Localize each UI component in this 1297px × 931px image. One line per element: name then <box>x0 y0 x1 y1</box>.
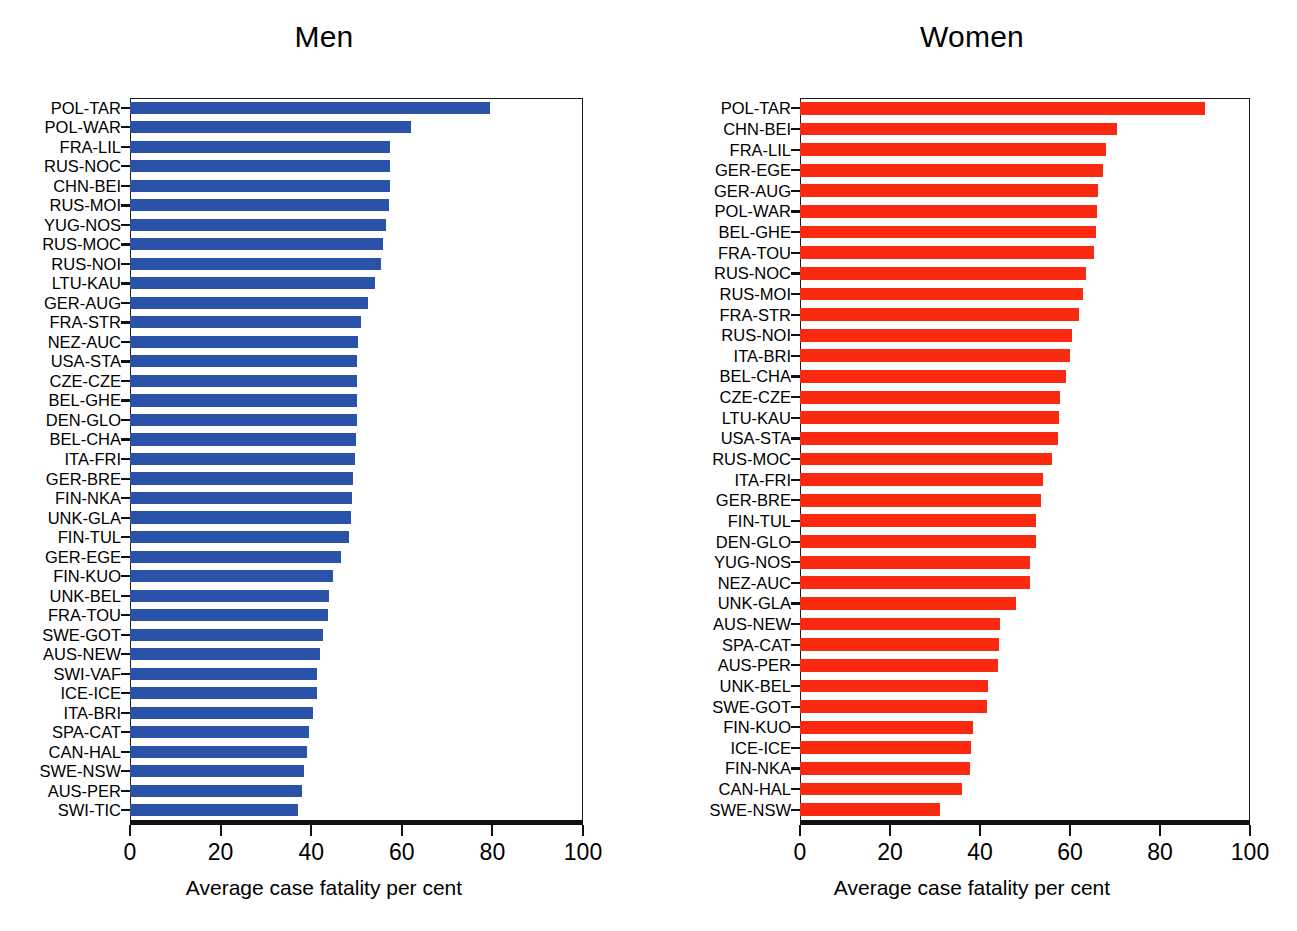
category-tick-mark <box>791 623 800 625</box>
category-tick-mark <box>791 210 800 212</box>
bar <box>130 297 368 309</box>
category-tick-mark <box>121 321 130 323</box>
bar <box>800 659 998 672</box>
bar-row: GER-BRE <box>130 472 583 484</box>
x-tick <box>1249 825 1251 836</box>
category-tick-mark <box>791 767 800 769</box>
category-label: DEN-GLO <box>46 412 121 429</box>
bar-row: USA-STA <box>800 432 1250 445</box>
x-tick-label: 80 <box>1147 839 1173 866</box>
bar-rows-men: POL-TARPOL-WARFRA-LILRUS-NOCCHN-BEIRUS-M… <box>130 98 583 820</box>
x-tick-label: 60 <box>389 839 415 866</box>
bar-row: RUS-NOI <box>130 258 583 270</box>
category-tick-mark <box>791 582 800 584</box>
x-tick <box>889 825 891 836</box>
category-label: LTU-KAU <box>722 409 791 426</box>
bar-row: RUS-MOI <box>130 199 583 211</box>
category-label: ITA-BRI <box>734 348 791 365</box>
bar-row: BEL-GHE <box>800 226 1250 239</box>
bar-row: FRA-LIL <box>800 143 1250 156</box>
bar <box>130 160 390 172</box>
bar <box>130 726 309 738</box>
bar <box>800 349 1070 362</box>
bar <box>130 687 317 699</box>
category-label: GER-AUG <box>44 295 121 312</box>
category-tick-mark <box>121 185 130 187</box>
bar <box>130 121 411 133</box>
bar-row: FIN-NKA <box>800 762 1250 775</box>
bar-row: FIN-KUO <box>800 721 1250 734</box>
category-tick-mark <box>791 788 800 790</box>
x-axis-line-men <box>130 820 583 825</box>
category-tick-mark <box>791 293 800 295</box>
bar-row: FIN-NKA <box>130 492 583 504</box>
category-label: FRA-LIL <box>60 139 121 156</box>
category-label: CHN-BEI <box>723 121 791 138</box>
bar-row: FRA-TOU <box>130 609 583 621</box>
x-tick-label: 100 <box>1231 839 1269 866</box>
x-tick <box>799 825 801 836</box>
bar <box>130 258 381 270</box>
category-label: SWE-GOT <box>42 626 121 643</box>
category-label: POL-WAR <box>45 119 121 136</box>
bar-row: FRA-STR <box>130 316 583 328</box>
bar <box>800 535 1036 548</box>
bar <box>130 316 361 328</box>
x-tick-label: 20 <box>208 839 234 866</box>
bar-row: CZE-CZE <box>130 375 583 387</box>
category-label: ITA-FRI <box>64 451 121 468</box>
x-tick <box>220 825 222 836</box>
bar-row: RUS-MOI <box>800 288 1250 301</box>
category-tick-mark <box>791 561 800 563</box>
bar <box>800 514 1036 527</box>
x-tick <box>1159 825 1161 836</box>
category-tick-mark <box>791 706 800 708</box>
bar-row: BEL-CHA <box>130 433 583 445</box>
category-tick-mark <box>121 146 130 148</box>
bar-row: RUS-MOC <box>130 238 583 250</box>
category-label: AUS-PER <box>718 657 791 674</box>
bar-row: FIN-TUL <box>130 531 583 543</box>
category-tick-mark <box>791 479 800 481</box>
category-label: YUG-NOS <box>714 554 791 571</box>
category-label: ITA-FRI <box>734 471 791 488</box>
bar-row: FIN-KUO <box>130 570 583 582</box>
bar <box>800 680 988 693</box>
x-tick <box>979 825 981 836</box>
bar <box>130 707 313 719</box>
bar-row: GER-EGE <box>800 164 1250 177</box>
bar-row: CAN-HAL <box>800 783 1250 796</box>
category-label: FIN-TUL <box>728 513 791 530</box>
bar <box>130 375 357 387</box>
category-tick-mark <box>121 399 130 401</box>
category-tick-mark <box>791 602 800 604</box>
category-tick-mark <box>791 644 800 646</box>
bar <box>800 411 1059 424</box>
bar-row: SWI-TIC <box>130 804 583 816</box>
category-label: SWI-VAF <box>53 665 121 682</box>
category-label: ITA-BRI <box>64 704 121 721</box>
category-tick-mark <box>121 517 130 519</box>
category-tick-mark <box>121 438 130 440</box>
bar-row: YUG-NOS <box>800 556 1250 569</box>
category-tick-mark <box>791 809 800 811</box>
category-tick-mark <box>121 263 130 265</box>
bar <box>130 277 375 289</box>
bar <box>130 492 352 504</box>
category-tick-mark <box>121 692 130 694</box>
category-tick-mark <box>791 314 800 316</box>
category-tick-mark <box>791 107 800 109</box>
bar-row: CZE-CZE <box>800 391 1250 404</box>
x-tick-label: 40 <box>967 839 993 866</box>
bar-row: ITA-FRI <box>800 473 1250 486</box>
bar-row: NEZ-AUC <box>800 576 1250 589</box>
category-label: RUS-NOC <box>44 158 121 175</box>
bar <box>130 199 389 211</box>
plot-area-men: POL-TARPOL-WARFRA-LILRUS-NOCCHN-BEIRUS-M… <box>130 98 583 820</box>
category-label: SPA-CAT <box>722 636 791 653</box>
category-label: UNK-BEL <box>49 587 121 604</box>
category-label: GER-EGE <box>45 548 121 565</box>
category-tick-mark <box>121 341 130 343</box>
bar-row: ITA-BRI <box>800 349 1250 362</box>
category-tick-mark <box>791 169 800 171</box>
